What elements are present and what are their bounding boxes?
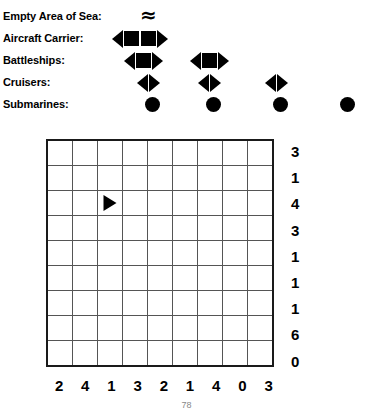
grid-cell[interactable] [123,166,148,191]
grid-cell[interactable] [47,191,73,216]
grid-cell[interactable] [47,166,73,191]
grid-cell[interactable] [73,291,98,316]
grid-cell[interactable] [123,316,148,341]
grid-cell[interactable] [223,140,248,166]
grid-cell[interactable] [173,241,198,266]
ship-legend: Empty Area of Sea: ≈ Aircraft Carrier: B… [0,0,373,128]
grid-cell[interactable] [98,266,123,291]
grid-table[interactable] [46,139,274,367]
grid-cell[interactable] [248,216,274,241]
grid-cell[interactable] [73,140,98,166]
grid-cell[interactable] [198,341,223,367]
grid-cell[interactable] [98,316,123,341]
grid-row [47,316,273,341]
grid-cell[interactable] [98,291,123,316]
grid-cell[interactable] [73,216,98,241]
grid-cell[interactable] [173,266,198,291]
grid-cell[interactable] [198,316,223,341]
grid-cell[interactable] [98,191,123,216]
grid-cell[interactable] [198,241,223,266]
grid-cell[interactable] [173,291,198,316]
grid-cell[interactable] [148,216,173,241]
legend-label-aircraft-carrier: Aircraft Carrier: [3,28,83,49]
grid-cell[interactable] [148,341,173,367]
grid-row [47,266,273,291]
grid-cell[interactable] [98,341,123,367]
grid-cell[interactable] [248,140,274,166]
legend-row-battleships: Battleships: [0,50,373,71]
column-clue: 1 [98,377,124,395]
grid-cell[interactable] [148,140,173,166]
grid-cell[interactable] [98,140,123,166]
grid-cell[interactable] [198,191,223,216]
grid-cell[interactable] [198,166,223,191]
grid-cell[interactable] [73,191,98,216]
grid-cell[interactable] [123,341,148,367]
grid-row [47,241,273,266]
grid-cell[interactable] [148,166,173,191]
grid-cell[interactable] [223,266,248,291]
grid-cell[interactable] [47,291,73,316]
grid-cell[interactable] [98,216,123,241]
grid-cell[interactable] [248,166,274,191]
grid-cell[interactable] [123,266,148,291]
row-clue: 4 [285,191,315,217]
grid-cell[interactable] [47,216,73,241]
grid-cell[interactable] [173,140,198,166]
grid-cell[interactable] [248,291,274,316]
column-clue: 0 [229,377,255,395]
grid-cell[interactable] [223,241,248,266]
grid-cell[interactable] [223,291,248,316]
grid-cell[interactable] [198,266,223,291]
legend-row-submarines: Submarines: [0,94,373,115]
grid-cell[interactable] [248,316,274,341]
grid-cell[interactable] [73,241,98,266]
grid-cell[interactable] [47,241,73,266]
grid-cell[interactable] [47,341,73,367]
grid-cell[interactable] [148,291,173,316]
grid-cell[interactable] [47,266,73,291]
grid-cell[interactable] [98,166,123,191]
grid-cell[interactable] [223,316,248,341]
battleship-icon [190,50,229,71]
grid-cell[interactable] [198,140,223,166]
grid-cell[interactable] [123,241,148,266]
grid-cell[interactable] [47,316,73,341]
grid-cell[interactable] [173,191,198,216]
cruiser-icon [137,72,160,93]
grid-cell[interactable] [173,341,198,367]
grid-cell[interactable] [248,191,274,216]
grid-cell[interactable] [73,341,98,367]
column-clue: 2 [46,377,72,395]
grid-cell[interactable] [47,140,73,166]
grid-cell[interactable] [248,241,274,266]
grid-cell[interactable] [123,140,148,166]
legend-label-cruisers: Cruisers: [3,72,50,93]
grid-cell[interactable] [248,341,274,367]
grid-cell[interactable] [198,291,223,316]
row-clue: 1 [285,165,315,191]
grid-cell[interactable] [148,316,173,341]
ship-nose-right-icon [277,74,288,92]
grid-cell[interactable] [148,266,173,291]
grid-cell[interactable] [223,216,248,241]
grid-cell[interactable] [173,166,198,191]
grid-cell[interactable] [98,241,123,266]
grid-cell[interactable] [223,166,248,191]
grid-cell[interactable] [223,341,248,367]
grid-cell[interactable] [173,316,198,341]
grid-cell[interactable] [123,291,148,316]
puzzle-grid[interactable] [46,139,274,367]
grid-cell[interactable] [198,216,223,241]
grid-cell[interactable] [123,216,148,241]
grid-cell[interactable] [223,191,248,216]
grid-cell[interactable] [248,266,274,291]
submarine-icon [340,97,355,112]
grid-cell[interactable] [148,241,173,266]
grid-cell[interactable] [148,191,173,216]
grid-cell[interactable] [173,216,198,241]
grid-cell[interactable] [73,166,98,191]
grid-cell[interactable] [123,191,148,216]
grid-cell[interactable] [73,316,98,341]
grid-cell[interactable] [73,266,98,291]
